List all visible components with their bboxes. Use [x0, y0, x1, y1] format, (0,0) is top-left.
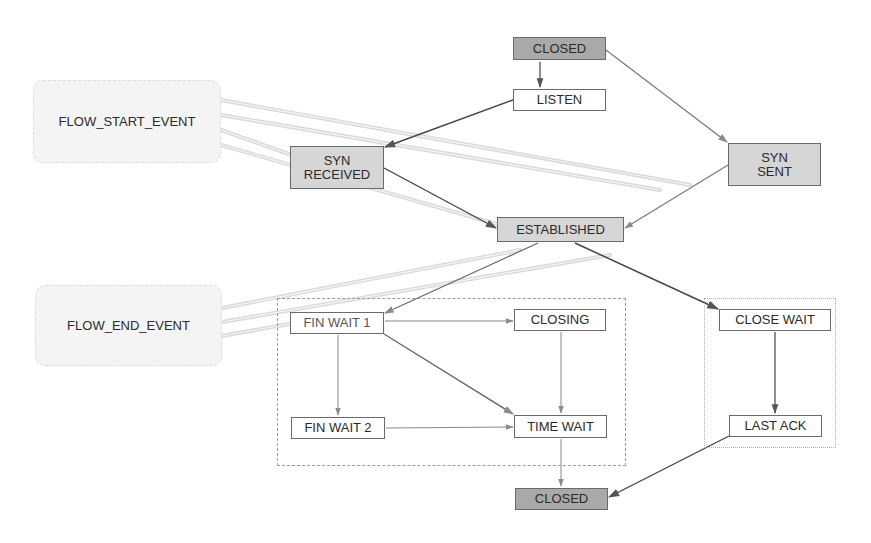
- state-label: LAST ACK: [745, 419, 807, 433]
- state-closed-bottom[interactable]: CLOSED: [515, 488, 608, 510]
- state-label: CLOSED: [535, 492, 588, 506]
- state-syn-sent[interactable]: SYN SENT: [728, 143, 821, 186]
- state-label: ESTABLISHED: [516, 223, 605, 237]
- state-label: TIME WAIT: [527, 420, 594, 434]
- flow-start-event[interactable]: FLOW_START_EVENT: [33, 80, 221, 163]
- state-label-line1: SYN: [761, 151, 788, 165]
- state-listen[interactable]: LISTEN: [513, 89, 606, 111]
- state-last-ack[interactable]: LAST ACK: [729, 415, 822, 437]
- state-label-line2: SENT: [757, 165, 792, 179]
- edge-closed-to-syn-sent: [606, 50, 727, 142]
- state-closed-top[interactable]: CLOSED: [513, 37, 606, 60]
- state-label: FIN WAIT 2: [304, 421, 371, 435]
- state-label: FIN WAIT 1: [303, 316, 370, 330]
- state-syn-received[interactable]: SYN RECEIVED: [290, 146, 384, 189]
- state-label: CLOSED: [533, 42, 586, 56]
- state-fin-wait-2[interactable]: FIN WAIT 2: [291, 417, 385, 439]
- state-label: CLOSE WAIT: [735, 313, 815, 327]
- state-close-wait[interactable]: CLOSE WAIT: [719, 309, 831, 331]
- flow-end-event-label: FLOW_END_EVENT: [67, 318, 190, 333]
- state-label-line2: RECEIVED: [304, 168, 370, 182]
- state-established[interactable]: ESTABLISHED: [497, 217, 624, 242]
- state-fin-wait-1[interactable]: FIN WAIT 1: [290, 312, 384, 334]
- state-label-line1: SYN: [324, 154, 351, 168]
- flow-start-event-label: FLOW_START_EVENT: [59, 114, 196, 129]
- state-label: LISTEN: [537, 93, 583, 107]
- state-closing[interactable]: CLOSING: [514, 309, 606, 331]
- flow-end-event[interactable]: FLOW_END_EVENT: [35, 285, 222, 366]
- state-label: CLOSING: [531, 313, 590, 327]
- state-time-wait[interactable]: TIME WAIT: [514, 415, 607, 438]
